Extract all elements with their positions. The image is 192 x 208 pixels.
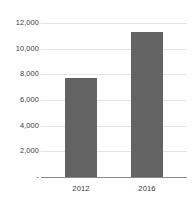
y-axis-tick-label: 12,000	[0, 19, 39, 27]
bar	[131, 32, 163, 177]
gridline	[41, 100, 187, 101]
gridline	[41, 126, 187, 127]
gridline	[41, 74, 187, 75]
gridline	[41, 23, 187, 24]
y-axis-tick-label: 4,000	[0, 122, 39, 130]
y-axis-tick-label: 2,000	[0, 147, 39, 155]
gridline	[41, 49, 187, 50]
y-axis-tick-labels: 12,00010,0008,0006,0004,0002,000-	[0, 0, 39, 208]
x-axis-tick-label: 2016	[120, 184, 174, 193]
x-axis-line	[41, 177, 187, 178]
y-axis-tick-label: -	[0, 173, 39, 181]
bar	[65, 78, 97, 177]
y-axis-tick-label: 10,000	[0, 45, 39, 53]
y-axis-tick-label: 8,000	[0, 70, 39, 78]
bar-chart: 12,00010,0008,0006,0004,0002,000- 201220…	[0, 0, 192, 208]
x-axis-tick-label: 2012	[54, 184, 108, 193]
y-axis-tick-label: 6,000	[0, 96, 39, 104]
plot-area	[41, 14, 187, 177]
gridline	[41, 151, 187, 152]
